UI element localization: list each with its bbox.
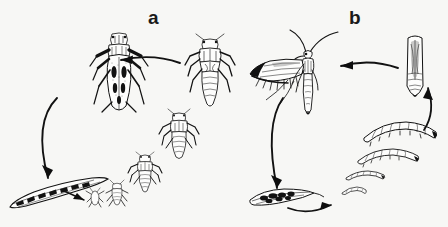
- panel-a-group: [10, 33, 235, 208]
- leafhopper-nymph-3: [128, 152, 162, 192]
- insect-life-cycle-figure: a b: [0, 0, 448, 227]
- leafhopper-nymph-5: [185, 34, 235, 106]
- arrow-nymph-to-adult: [121, 56, 180, 65]
- arrow-moth-to-eggs: [271, 98, 283, 188]
- moth-larva-2: [346, 171, 385, 180]
- moth-pupa: [407, 36, 423, 97]
- panel-label-b: b: [349, 8, 361, 27]
- arrow-pupa-to-moth: [341, 61, 398, 70]
- figure-canvas: [0, 0, 448, 227]
- moth-larva-1: [342, 187, 367, 195]
- arrow-larva-to-pupa: [423, 88, 433, 130]
- arrow-adult-to-eggs: [42, 98, 57, 178]
- panel-b-group: [250, 30, 437, 211]
- moth-adult: [250, 30, 338, 115]
- leafhopper-hatchling: [86, 188, 104, 207]
- leafhopper-adult: [90, 33, 148, 112]
- moth-eggs: [250, 189, 324, 205]
- panel-label-a: a: [148, 8, 159, 27]
- moth-larva-3: [358, 149, 419, 167]
- leafhopper-nymph-4: [159, 109, 199, 159]
- leafhopper-nymph-1: [106, 180, 128, 206]
- arrow-eggs-to-larva: [288, 202, 331, 211]
